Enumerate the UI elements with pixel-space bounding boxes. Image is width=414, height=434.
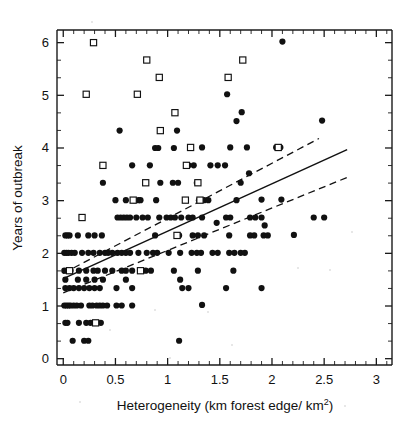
data-point-circle <box>76 268 82 274</box>
scatter-plot-figure: 00.511.522.53 0123456 Heterogeneity (km … <box>0 0 414 434</box>
data-point-square <box>137 268 143 274</box>
data-point-circle <box>113 285 119 291</box>
y-tick-label: 2 <box>42 246 49 261</box>
data-point-circle <box>83 277 89 283</box>
data-point-circle <box>97 285 103 291</box>
x-tick-label: 1.5 <box>211 372 229 387</box>
data-point-circle <box>153 197 159 203</box>
data-point-circle <box>137 197 143 203</box>
data-point-circle <box>75 277 81 283</box>
data-point-circle <box>239 109 245 115</box>
data-point-circle <box>223 285 229 291</box>
data-point-square <box>225 74 231 80</box>
data-point-circle <box>109 268 115 274</box>
data-point-circle <box>127 214 133 220</box>
data-point-circle <box>258 285 264 291</box>
data-point-circle <box>319 117 325 123</box>
x-axis-tick-labels: 00.511.522.53 <box>60 372 380 387</box>
scan-speck <box>351 231 353 233</box>
data-point-square <box>182 197 188 203</box>
data-point-circle <box>95 268 101 274</box>
scan-speck <box>297 267 299 269</box>
data-point-circle <box>262 222 268 228</box>
data-point-circle <box>90 250 96 256</box>
data-point-circle <box>311 214 317 220</box>
data-point-square <box>144 57 150 63</box>
data-point-circle <box>278 197 284 203</box>
data-point-circle <box>100 277 106 283</box>
data-point-circle <box>171 145 177 151</box>
plot-canvas: 00.511.522.53 0123456 Heterogeneity (km … <box>0 0 414 434</box>
data-point-square <box>275 144 281 150</box>
data-point-square <box>130 197 136 203</box>
y-axis-title: Years of outbreak <box>10 145 25 251</box>
data-point-circle <box>72 250 78 256</box>
data-point-circle <box>129 268 135 274</box>
data-point-circle <box>177 277 183 283</box>
data-point-circle <box>129 162 135 168</box>
data-point-circle <box>191 162 197 168</box>
y-tick-label: 1 <box>42 299 49 314</box>
x-tick-label: 2 <box>268 372 275 387</box>
x-axis-title: Heterogeneity (km forest edge/ km2) <box>117 397 334 413</box>
data-point-circle <box>117 128 123 134</box>
data-point-circle <box>171 268 177 274</box>
scan-speck <box>169 357 171 359</box>
data-point-circle <box>238 180 244 186</box>
data-point-square <box>100 162 106 168</box>
data-point-circle <box>102 268 108 274</box>
data-point-circle <box>85 338 91 344</box>
data-point-circle <box>144 250 150 256</box>
data-point-circle <box>83 268 89 274</box>
data-point-circle <box>199 144 205 150</box>
data-point-circle <box>129 302 135 308</box>
data-point-circle <box>123 268 129 274</box>
data-point-circle <box>155 145 161 151</box>
data-point-circle <box>145 214 151 220</box>
data-point-circle <box>75 232 81 238</box>
data-point-square <box>174 232 180 238</box>
scan-speck <box>154 309 156 311</box>
x-tick-label: 0.5 <box>106 372 124 387</box>
data-point-circle <box>215 250 221 256</box>
data-point-circle <box>133 214 139 220</box>
y-tick-label: 5 <box>42 88 49 103</box>
data-point-circle <box>258 214 264 220</box>
figure-background <box>0 0 414 434</box>
data-point-circle <box>291 232 297 238</box>
data-point-circle <box>321 214 327 220</box>
data-point-circle <box>198 250 204 256</box>
data-point-circle <box>119 302 125 308</box>
data-point-circle <box>99 232 105 238</box>
data-point-circle <box>233 197 239 203</box>
data-point-square <box>134 91 140 97</box>
data-point-circle <box>100 180 106 186</box>
data-point-square <box>183 162 189 168</box>
data-point-circle <box>112 197 118 203</box>
x-tick-label: 1 <box>164 372 171 387</box>
data-point-circle <box>127 250 133 256</box>
scan-speck <box>79 401 81 403</box>
data-point-square <box>156 74 162 80</box>
data-point-circle <box>246 170 252 176</box>
data-point-circle <box>176 338 182 344</box>
data-point-circle <box>123 277 129 283</box>
data-point-circle <box>175 180 181 186</box>
data-point-circle <box>226 232 232 238</box>
x-tick-label: 2.5 <box>315 372 333 387</box>
data-point-circle <box>174 128 180 134</box>
data-point-circle <box>227 214 233 220</box>
data-point-square <box>195 180 201 186</box>
data-point-circle <box>178 214 184 220</box>
data-point-circle <box>147 162 153 168</box>
data-point-circle <box>66 232 72 238</box>
data-point-circle <box>185 285 191 291</box>
scan-speck <box>231 344 233 346</box>
data-point-square <box>66 268 72 274</box>
y-tick-label: 0 <box>42 351 49 366</box>
data-point-circle <box>244 144 250 150</box>
data-point-circle <box>242 250 248 256</box>
y-tick-label: 6 <box>42 35 49 50</box>
scan-speck <box>207 311 209 313</box>
data-point-circle <box>70 338 76 344</box>
